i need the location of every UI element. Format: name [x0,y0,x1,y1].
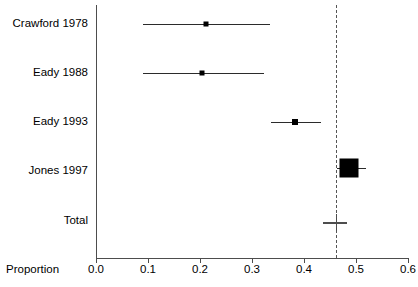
study-label-crawford-1978: Crawford 1978 [13,17,88,29]
x-tick-label-0: 0.0 [88,263,104,276]
summary-center-tick-total [336,214,337,231]
study-label-jones-1997: Jones 1997 [29,164,88,176]
point-marker-crawford-1978 [204,22,209,27]
point-marker-jones-1997 [340,159,359,178]
x-tick-label-5: 0.5 [348,263,364,276]
x-axis-title: Proportion [6,263,59,276]
x-tick-label-4: 0.4 [296,263,312,276]
x-tick-label-3: 0.3 [244,263,260,276]
study-label-eady-1988: Eady 1988 [33,66,88,78]
forest-plot: Crawford 1978 Eady 1988 Eady 1993 Jones … [0,0,418,287]
study-label-total: Total [64,214,88,226]
point-marker-eady-1988 [200,71,205,76]
x-tick-label-6: 0.6 [400,263,416,276]
study-label-eady-1993: Eady 1993 [33,115,88,127]
summary-ci-line-total [323,222,347,224]
y-axis-line [96,5,97,258]
x-tick-label-2: 0.2 [192,263,208,276]
point-marker-eady-1993 [292,119,298,125]
x-tick-label-1: 0.1 [140,263,156,276]
